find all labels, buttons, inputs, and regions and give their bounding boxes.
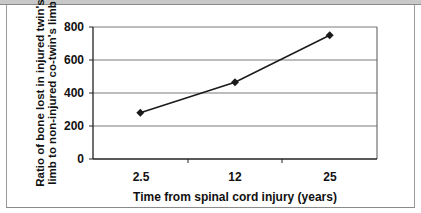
y-tick-200: 200 bbox=[64, 119, 84, 133]
line-chart: 800 600 400 200 0 2.5 12 25 Time from sp… bbox=[0, 0, 421, 213]
y-tick-400: 400 bbox=[64, 86, 84, 100]
y-axis-label-line1: Ratio of bone lost in injured twin's bbox=[34, 0, 46, 187]
diamond-marker-1 bbox=[231, 78, 239, 86]
y-axis-label-line2: limb to non-injured co-twin's limb bbox=[46, 1, 58, 185]
y-axis-label: Ratio of bone lost in injured twin's lim… bbox=[34, 0, 58, 187]
y-tick-800: 800 bbox=[64, 20, 84, 34]
y-tick-0: 0 bbox=[77, 152, 84, 166]
x-tick-2-5: 2.5 bbox=[133, 170, 150, 184]
y-tick-600: 600 bbox=[64, 53, 84, 67]
series-line bbox=[140, 35, 329, 113]
x-axis-label: Time from spinal cord injury (years) bbox=[133, 190, 337, 204]
gridlines bbox=[93, 27, 377, 126]
diamond-marker-0 bbox=[136, 109, 144, 117]
x-tick-25: 25 bbox=[323, 170, 337, 184]
diamond-marker-2 bbox=[326, 31, 334, 39]
x-tick-12: 12 bbox=[228, 170, 242, 184]
